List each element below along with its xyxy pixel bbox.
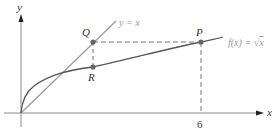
y-axis-arrow-icon: [19, 14, 24, 22]
point-q: [90, 39, 95, 44]
point-p: [198, 39, 203, 44]
point-p-label: P: [195, 26, 203, 38]
line-label: y = x: [118, 17, 140, 28]
y-axis-label: y: [16, 1, 22, 13]
point-r: [90, 64, 95, 69]
x-axis-label: x: [266, 106, 272, 118]
x-axis-arrow-icon: [256, 111, 264, 116]
point-q-label: Q: [82, 26, 90, 38]
function-diagram: y x 6 y = x f(x) = √x Q R P: [0, 0, 277, 132]
x-tick-6: 6: [197, 118, 203, 130]
point-r-label: R: [87, 71, 95, 83]
line-y-equals-x: [21, 21, 116, 113]
sqrt-curve: [21, 37, 223, 113]
curve-label: f(x) = √x: [228, 37, 264, 49]
